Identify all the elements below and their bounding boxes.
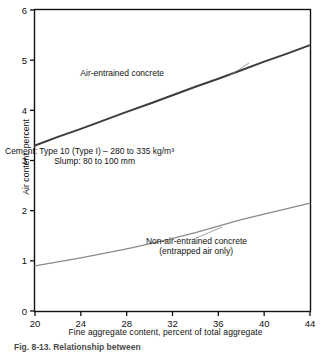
non-air-entrained-label-line-2: (entrapped air only) — [159, 246, 233, 256]
x-axis-title: Fine aggregate content, percent of total… — [0, 327, 331, 337]
figure-caption: Fig. 8-13. Relationship between — [14, 342, 141, 352]
y-tick-label: 0 — [22, 306, 27, 317]
non-air-entrained-label-line-1: Non-air-entrained concrete — [146, 236, 247, 246]
conditions-line-2: Slump: 80 to 100 mm — [54, 156, 135, 166]
air-entrained-label: Air-entrained concrete — [80, 68, 164, 78]
y-axis-title: Air content, percent — [21, 77, 31, 237]
y-tick-label: 6 — [22, 5, 27, 16]
y-tick-label: 1 — [22, 255, 27, 266]
y-tick-label: 5 — [22, 55, 27, 66]
